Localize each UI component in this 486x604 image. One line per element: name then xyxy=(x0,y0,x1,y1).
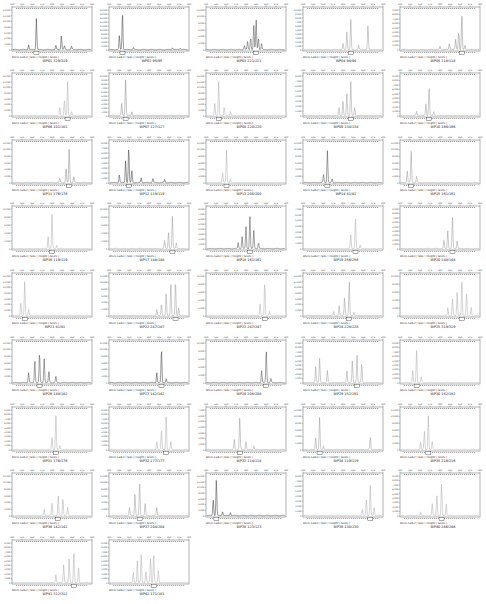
svg-text:3,000: 3,000 xyxy=(295,37,302,40)
allele-label-box xyxy=(325,184,330,187)
svg-text:9,000: 9,000 xyxy=(392,475,399,478)
svg-text:100: 100 xyxy=(10,269,15,272)
svg-text:14,000: 14,000 xyxy=(3,9,11,12)
svg-text:175: 175 xyxy=(137,202,142,205)
svg-text:300: 300 xyxy=(90,69,95,72)
svg-text:0: 0 xyxy=(203,115,205,118)
svg-text:0: 0 xyxy=(9,382,11,385)
svg-text:225: 225 xyxy=(254,69,259,72)
svg-text:3,000: 3,000 xyxy=(198,233,205,236)
electropherogram-panel: 10012515017520022525027530012,00010,0008… xyxy=(97,266,194,332)
svg-text:275: 275 xyxy=(371,336,376,339)
svg-text:225: 225 xyxy=(60,269,65,272)
svg-text:4,000: 4,000 xyxy=(295,95,302,98)
svg-text:5,000: 5,000 xyxy=(392,226,399,229)
svg-text:4,000: 4,000 xyxy=(392,97,399,100)
svg-text:10,000: 10,000 xyxy=(197,86,205,89)
marker-title: WP37 204/204 xyxy=(122,525,182,529)
svg-text:150: 150 xyxy=(224,136,229,139)
svg-text:0: 0 xyxy=(106,382,108,385)
svg-text:175: 175 xyxy=(40,269,45,272)
svg-text:4,000: 4,000 xyxy=(295,33,302,36)
svg-text:275: 275 xyxy=(371,69,376,72)
svg-text:6,000: 6,000 xyxy=(4,422,11,425)
allele-label-box xyxy=(123,117,128,120)
svg-text:175: 175 xyxy=(40,403,45,406)
svg-text:200: 200 xyxy=(147,136,152,139)
svg-text:2,000: 2,000 xyxy=(295,505,302,508)
svg-text:300: 300 xyxy=(187,136,192,139)
svg-text:300: 300 xyxy=(284,69,289,72)
svg-text:9,000: 9,000 xyxy=(101,79,108,82)
svg-text:200: 200 xyxy=(50,336,55,339)
svg-text:100: 100 xyxy=(107,3,112,6)
svg-text:125: 125 xyxy=(20,269,25,272)
svg-text:225: 225 xyxy=(254,469,259,472)
marker-title: WP26 148/182 xyxy=(25,392,85,396)
svg-text:275: 275 xyxy=(274,69,279,72)
svg-text:2,000: 2,000 xyxy=(295,236,302,239)
svg-text:175: 175 xyxy=(428,336,433,339)
electropherogram-panel: 10012515017520022525027530012,00010,0008… xyxy=(97,466,194,532)
svg-text:4,000: 4,000 xyxy=(198,426,205,429)
svg-text:1,000: 1,000 xyxy=(392,110,399,113)
svg-text:6,000: 6,000 xyxy=(295,214,302,217)
svg-text:200: 200 xyxy=(50,3,55,6)
svg-text:6,000: 6,000 xyxy=(295,429,302,432)
svg-text:200: 200 xyxy=(438,269,443,272)
svg-text:2,000: 2,000 xyxy=(101,45,108,48)
svg-text:250: 250 xyxy=(167,3,172,6)
svg-text:125: 125 xyxy=(214,69,219,72)
svg-text:5,000: 5,000 xyxy=(4,427,11,430)
svg-text:2,000: 2,000 xyxy=(295,175,302,178)
svg-text:125: 125 xyxy=(20,403,25,406)
svg-text:175: 175 xyxy=(234,269,239,272)
svg-text:200: 200 xyxy=(341,136,346,139)
svg-text:6,000: 6,000 xyxy=(392,221,399,224)
electropherogram-panel: 1001251501752002252502753009,0008,0007,0… xyxy=(0,533,97,599)
svg-text:300: 300 xyxy=(90,3,95,6)
svg-text:125: 125 xyxy=(311,136,316,139)
svg-text:150: 150 xyxy=(224,3,229,6)
svg-text:175: 175 xyxy=(137,3,142,6)
svg-text:225: 225 xyxy=(351,469,356,472)
marker-title: WP06 101/101 xyxy=(25,125,85,129)
svg-text:225: 225 xyxy=(60,336,65,339)
svg-text:8,000: 8,000 xyxy=(392,155,399,158)
svg-text:0: 0 xyxy=(106,182,108,185)
svg-text:275: 275 xyxy=(468,3,473,6)
svg-text:6,000: 6,000 xyxy=(198,358,205,361)
svg-text:6,000: 6,000 xyxy=(198,98,205,101)
electropherogram-panel: 10012515017520022525027530010,0008,0006,… xyxy=(194,333,291,399)
svg-text:125: 125 xyxy=(214,403,219,406)
allele-label-box xyxy=(71,584,76,587)
svg-text:4,000: 4,000 xyxy=(101,162,108,165)
svg-text:1,000: 1,000 xyxy=(101,177,108,180)
svg-text:6,000: 6,000 xyxy=(198,162,205,165)
svg-text:150: 150 xyxy=(127,269,132,272)
svg-text:0: 0 xyxy=(300,115,302,118)
svg-text:12,000: 12,000 xyxy=(197,142,205,145)
svg-text:3,000: 3,000 xyxy=(295,100,302,103)
svg-text:175: 175 xyxy=(428,469,433,472)
svg-text:1,000: 1,000 xyxy=(295,242,302,245)
svg-text:275: 275 xyxy=(177,69,182,72)
svg-text:275: 275 xyxy=(468,403,473,406)
svg-text:0: 0 xyxy=(397,182,399,185)
svg-text:4,000: 4,000 xyxy=(198,228,205,231)
svg-text:250: 250 xyxy=(458,403,463,406)
svg-text:10,000: 10,000 xyxy=(100,281,108,284)
svg-text:150: 150 xyxy=(127,69,132,72)
svg-text:100: 100 xyxy=(301,469,306,472)
svg-text:100: 100 xyxy=(204,469,209,472)
allele-label-box xyxy=(348,117,353,120)
svg-text:275: 275 xyxy=(371,136,376,139)
svg-text:250: 250 xyxy=(361,469,366,472)
svg-text:4,000: 4,000 xyxy=(4,431,11,434)
svg-text:225: 225 xyxy=(351,69,356,72)
electropherogram-panel: 1001251501752002252502753008,0007,0006,0… xyxy=(97,133,194,199)
svg-text:6,000: 6,000 xyxy=(101,224,108,227)
svg-text:5,000: 5,000 xyxy=(198,420,205,423)
svg-text:100: 100 xyxy=(301,69,306,72)
svg-text:10,000: 10,000 xyxy=(197,15,205,18)
